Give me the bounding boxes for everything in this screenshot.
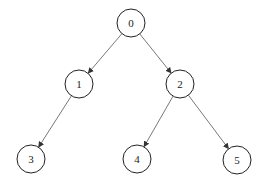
- node-label: 3: [28, 153, 34, 165]
- node-label: 2: [177, 78, 183, 90]
- edge-0-2: [140, 34, 171, 73]
- edge-0-1: [88, 34, 122, 74]
- node-label: 0: [128, 17, 134, 29]
- tree-node-2: 2: [166, 70, 194, 98]
- node-label: 5: [234, 154, 240, 166]
- tree-diagram: 012345: [0, 0, 268, 184]
- edge-2-5: [188, 95, 228, 149]
- node-label: 1: [76, 78, 82, 90]
- edge-2-4: [144, 96, 173, 147]
- tree-node-4: 4: [123, 145, 151, 173]
- tree-node-5: 5: [223, 146, 251, 174]
- nodes: 012345: [17, 9, 251, 174]
- edge-1-3: [39, 96, 72, 147]
- tree-node-1: 1: [65, 70, 93, 98]
- tree-node-3: 3: [17, 145, 45, 173]
- tree-node-0: 0: [117, 9, 145, 37]
- node-label: 4: [134, 153, 140, 165]
